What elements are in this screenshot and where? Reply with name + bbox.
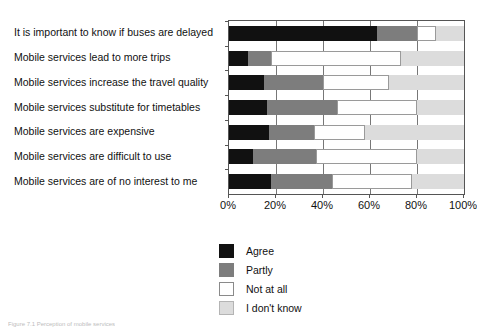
bar-row (229, 125, 464, 140)
x-axis-tick (369, 194, 370, 198)
category-label: Mobile services are difficult to use (14, 150, 222, 162)
bar-segment-not-at-all (417, 26, 436, 41)
legend-swatch-icon (219, 263, 234, 277)
bar-segment-i-don-t-know (401, 51, 464, 66)
bar-segment-i-don-t-know (417, 149, 464, 164)
x-axis-tick (228, 194, 229, 198)
legend-label: Not at all (246, 283, 287, 295)
category-label: Mobile services are expensive (14, 125, 222, 137)
y-axis-tick (225, 120, 229, 121)
category-label: Mobile services increase the travel qual… (14, 76, 222, 88)
x-axis-tick (416, 194, 417, 198)
x-axis-tick-label: 20% (264, 199, 286, 211)
x-axis-tick (275, 194, 276, 198)
legend-item: Partly (219, 260, 369, 279)
bar-row (229, 149, 464, 164)
bar-segment-partly (264, 75, 323, 90)
bar-row (229, 75, 464, 90)
y-axis-tick (225, 95, 229, 96)
x-axis: 0%20%40%60%80%100% (228, 194, 465, 214)
bar-segment-i-don-t-know (365, 125, 464, 140)
x-axis-tick (463, 194, 464, 198)
x-axis-tick-label: 40% (311, 199, 333, 211)
bar-row (229, 100, 464, 115)
bar-series-container (229, 21, 464, 194)
bar-segment-partly (271, 174, 332, 189)
category-label: Mobile services substitute for timetable… (14, 101, 222, 113)
bar-segment-i-don-t-know (389, 75, 464, 90)
bar-segment-i-don-t-know (436, 26, 464, 41)
figure-stacked-bar-chart: It is important to know if buses are del… (0, 0, 477, 329)
y-axis-tick (225, 145, 229, 146)
bar-segment-not-at-all (271, 51, 400, 66)
legend-item: Agree (219, 241, 369, 260)
bar-row (229, 51, 464, 66)
y-axis-tick (225, 46, 229, 47)
legend-item: Not at all (219, 279, 369, 298)
bar-segment-agree (229, 149, 253, 164)
legend-item: I don't know (219, 298, 369, 317)
category-label: Mobile services lead to more trips (14, 51, 222, 63)
x-axis-tick-label: 100% (449, 199, 477, 211)
legend-label: I don't know (246, 302, 302, 314)
legend-label: Partly (246, 264, 273, 276)
bar-segment-not-at-all (323, 75, 389, 90)
category-label: Mobile services are of no interest to me (14, 175, 222, 187)
x-axis-tick-label: 80% (405, 199, 427, 211)
bar-row (229, 174, 464, 189)
bar-row (229, 26, 464, 41)
bar-segment-agree (229, 51, 248, 66)
bar-segment-not-at-all (332, 174, 412, 189)
y-axis-tick (225, 70, 229, 71)
bar-segment-agree (229, 75, 264, 90)
x-axis-tick (322, 194, 323, 198)
y-axis-tick (225, 169, 229, 170)
bar-segment-partly (269, 125, 314, 140)
legend-swatch-icon (219, 282, 234, 296)
bar-segment-partly (248, 51, 272, 66)
bar-segment-partly (377, 26, 417, 41)
legend-swatch-icon (219, 244, 234, 258)
bar-segment-partly (253, 149, 316, 164)
category-axis-labels: It is important to know if buses are del… (14, 22, 222, 192)
bar-segment-agree (229, 174, 271, 189)
legend-swatch-icon (219, 301, 234, 315)
y-axis-tick (225, 21, 229, 22)
x-axis-tick-label: 0% (220, 199, 236, 211)
x-axis-tick-label: 60% (358, 199, 380, 211)
bar-segment-agree (229, 26, 377, 41)
legend-label: Agree (246, 245, 274, 257)
bar-segment-not-at-all (316, 149, 417, 164)
bar-segment-i-don-t-know (417, 100, 464, 115)
bar-segment-i-don-t-know (412, 174, 464, 189)
category-label: It is important to know if buses are del… (14, 26, 222, 38)
bar-segment-agree (229, 100, 267, 115)
chart-legend: AgreePartlyNot at allI don't know (219, 241, 369, 317)
figure-caption: Figure 7.1 Perception of mobile services (8, 321, 115, 329)
bar-segment-not-at-all (314, 125, 366, 140)
bar-segment-agree (229, 125, 269, 140)
bar-segment-not-at-all (337, 100, 417, 115)
plot-area (228, 20, 465, 195)
bar-segment-partly (267, 100, 338, 115)
